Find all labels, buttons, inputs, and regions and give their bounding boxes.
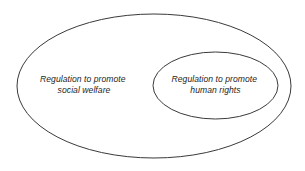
venn-diagram-svg: Regulation to promote social welfare Reg… [0, 0, 305, 171]
venn-diagram-canvas: Regulation to promote social welfare Reg… [0, 0, 305, 171]
inner-set-label: Regulation to promote human rights [171, 74, 259, 95]
inner-set-label-line2: human rights [190, 85, 241, 95]
outer-set-label: Regulation to promote social welfare [40, 74, 128, 95]
inner-set-label-line1: Regulation to promote [171, 74, 257, 84]
outer-set-label-line2: social welfare [58, 85, 111, 95]
outer-set-label-line1: Regulation to promote [40, 74, 126, 84]
